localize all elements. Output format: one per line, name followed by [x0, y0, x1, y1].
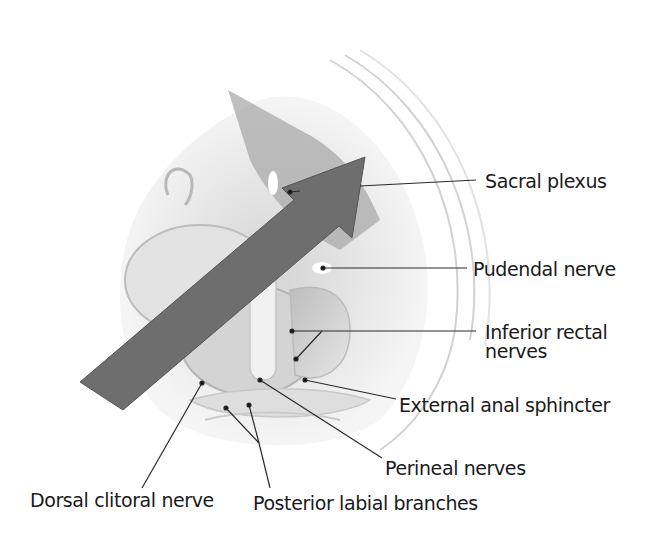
label-external-anal-sphincter: External anal sphincter: [399, 395, 610, 415]
label-sacral-plexus: Sacral plexus: [485, 171, 607, 191]
label-inferior-rectal-nerves-line2: nerves: [485, 341, 547, 361]
label-posterior-labial-branches: Posterior labial branches: [253, 493, 478, 513]
label-pudendal-nerve: Pudendal nerve: [473, 259, 616, 279]
anatomy-figure: Sacral plexus Pudendal nerve Inferior re…: [0, 0, 669, 544]
label-perineal-nerves: Perineal nerves: [385, 458, 526, 478]
label-dorsal-clitoral-nerve: Dorsal clitoral nerve: [30, 490, 214, 510]
label-inferior-rectal-nerves-line1: Inferior rectal: [485, 322, 608, 342]
